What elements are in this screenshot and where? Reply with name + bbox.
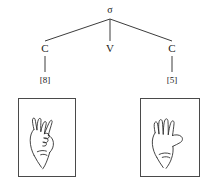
- hand-5-handshape-icon: [141, 99, 199, 176]
- branch-root-to-c-left: [45, 19, 110, 41]
- node-c-left: C: [30, 43, 60, 54]
- feature-label-8: [8]: [28, 76, 62, 85]
- node-c-right: C: [157, 43, 187, 54]
- hand-8-handshape-icon: [19, 99, 75, 176]
- hand-illustration-box-8: [18, 98, 76, 177]
- syllable-tree-figure: σ C V C [8] [5]: [0, 0, 217, 186]
- hand-illustration-box-5: [140, 98, 200, 177]
- node-v: V: [95, 43, 125, 54]
- branch-root-to-c-right: [110, 19, 172, 41]
- feature-label-5: [5]: [155, 76, 189, 85]
- node-sigma-root: σ: [95, 5, 125, 15]
